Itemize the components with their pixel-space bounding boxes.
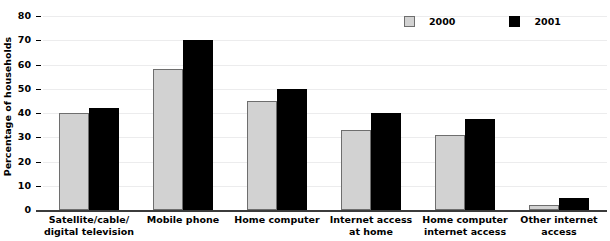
y-tick-label: 30 [5, 132, 31, 142]
legend-label-2001: 2001 [534, 17, 560, 27]
y-tick-label: 20 [5, 157, 31, 167]
y-tick-label: 70 [5, 35, 31, 45]
gridline [43, 162, 607, 163]
gridline [43, 89, 607, 90]
y-tick-mark [36, 162, 41, 163]
y-tick-label: 0 [5, 205, 31, 215]
gridline [43, 137, 607, 138]
y-tick-label: 10 [5, 181, 31, 191]
legend-item-2000: 2000 [404, 16, 455, 27]
y-tick-mark [36, 16, 41, 17]
bar-2001-2 [277, 89, 307, 210]
y-tick-mark [36, 65, 41, 66]
bar-2001-0 [89, 108, 119, 210]
y-tick-label: 60 [5, 60, 31, 70]
y-tick-label: 40 [5, 108, 31, 118]
plot-area [43, 16, 607, 210]
bar-2000-3 [341, 130, 371, 210]
bar-group [529, 16, 589, 210]
bar-2001-4 [465, 119, 495, 210]
legend-swatch-icon-2000 [404, 16, 415, 27]
bar-group [341, 16, 401, 210]
bar-2001-5 [559, 198, 589, 210]
gridline [43, 113, 607, 114]
legend-label-2000: 2000 [429, 17, 455, 27]
bar-group [435, 16, 495, 210]
gridline [43, 186, 607, 187]
legend-item-2001: 2001 [509, 16, 560, 27]
y-axis-title-label: Percentage of households [3, 36, 14, 176]
bar-group [59, 16, 119, 210]
bar-2000-1 [153, 69, 183, 210]
bar-group [153, 16, 213, 210]
bar-2000-0 [59, 113, 89, 210]
bar-2000-4 [435, 135, 465, 210]
y-tick-mark [36, 113, 41, 114]
legend-swatch-icon-2001 [509, 16, 520, 27]
y-tick-label: 80 [5, 11, 31, 21]
chart-legend: 2000 2001 [404, 16, 561, 27]
gridline [43, 65, 607, 66]
y-tick-mark [36, 186, 41, 187]
bar-2000-2 [247, 101, 277, 210]
gridline [43, 40, 607, 41]
x-axis-category-label: Other internet access [499, 214, 610, 238]
bar-2001-3 [371, 113, 401, 210]
bar-group [247, 16, 307, 210]
y-tick-mark [36, 137, 41, 138]
y-tick-mark [36, 89, 41, 90]
x-axis-line [36, 210, 607, 212]
y-tick-mark [36, 40, 41, 41]
bar-2001-1 [183, 40, 213, 210]
bar-chart: Percentage of households 010203040506070… [0, 0, 610, 241]
y-tick-label: 50 [5, 84, 31, 94]
